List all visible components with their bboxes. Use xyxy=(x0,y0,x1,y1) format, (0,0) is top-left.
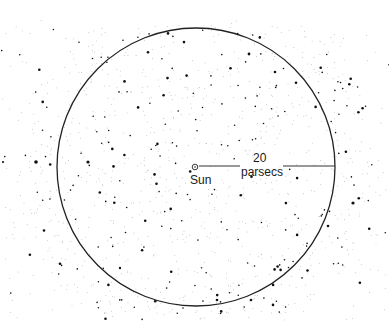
radius-unit: parsecs xyxy=(241,166,283,178)
boundary-circle xyxy=(57,28,335,306)
sun-label: Sun xyxy=(190,174,211,186)
star-field-canvas xyxy=(0,0,389,325)
sun-symbol-dot xyxy=(194,166,196,168)
star-field-diagram: Sun 20 parsecs xyxy=(0,0,389,325)
radius-value: 20 xyxy=(253,152,266,164)
